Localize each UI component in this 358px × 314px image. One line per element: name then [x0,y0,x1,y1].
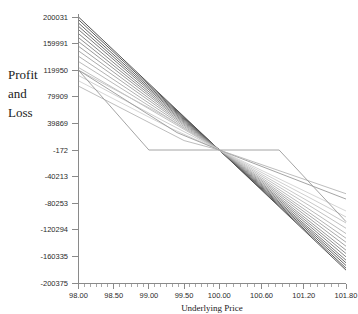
x-tick-label: 99.50 [175,291,194,300]
y-axis-title-line-1: Profit [8,67,38,82]
x-axis-ticks: 98.0098.5099.0099.50100.00100.60101.2010… [69,284,357,301]
y-tick-label: 200031 [43,13,68,22]
x-tick-label: 101.80 [335,291,358,300]
y-tick-label: 119950 [44,66,68,75]
y-axis-ticks: 2000311599911199507990939869-172-40213-8… [40,13,78,288]
y-tick-label: -80253 [45,199,68,208]
y-axis-title-line-3: Loss [8,105,33,120]
y-tick-label: -40213 [45,172,68,181]
x-tick-label: 98.50 [104,291,123,300]
profit-and-loss-chart: 2000311599911199507990939869-172-40213-8… [0,0,358,314]
y-axis-title: Profit and Loss [8,67,38,120]
y-tick-label: 39869 [47,119,68,128]
y-tick-label: -160335 [40,252,68,261]
y-tick-label: 159991 [43,39,68,48]
data-line [79,86,347,194]
x-tick-label: 101.20 [292,291,315,300]
x-axis-title: Underlying Price [181,303,243,313]
chart-canvas: 2000311599911199507990939869-172-40213-8… [0,0,358,314]
x-tick-label: 99.00 [139,291,158,300]
data-line [79,75,347,217]
y-tick-label: -120294 [40,225,68,234]
x-tick-label: 100.00 [208,291,231,300]
y-tick-label: 79909 [47,92,68,101]
x-tick-label: 98.00 [69,291,88,300]
y-tick-label: -200375 [40,279,68,288]
x-tick-label: 100.60 [250,291,273,300]
data-line-group [79,17,347,270]
y-axis-title-line-2: and [8,86,27,101]
y-tick-label: -172 [53,146,68,155]
